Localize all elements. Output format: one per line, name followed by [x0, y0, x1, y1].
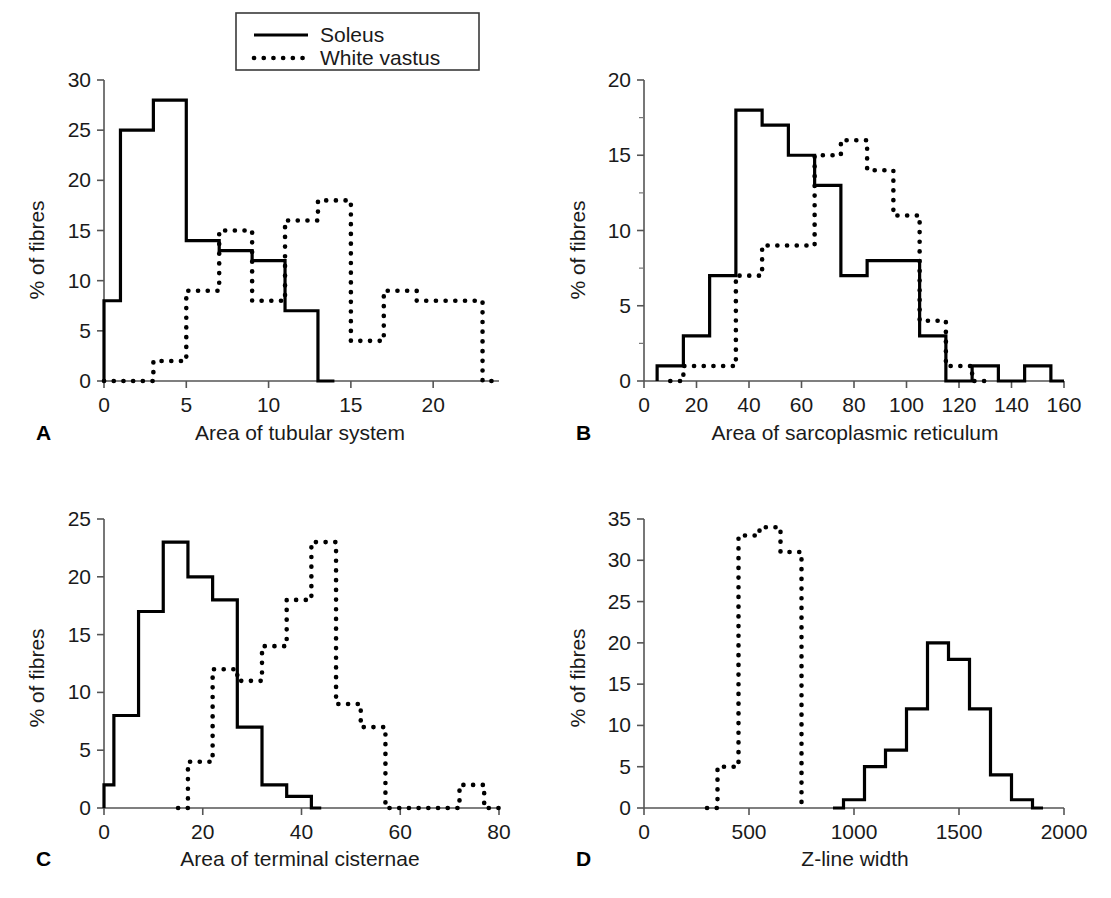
x-tick-label: 10	[257, 393, 280, 416]
panel-d: 050010001500200005101520253035% of fibre…	[566, 507, 1087, 870]
x-tick-label: 2000	[1041, 820, 1088, 843]
y-tick-label: 15	[608, 143, 631, 166]
x-axis-title: Area of terminal cisternae	[180, 847, 419, 870]
y-tick-label: 35	[608, 507, 631, 530]
panel-a: 05101520051015202530% of fibresArea of t…	[25, 68, 499, 444]
x-axis-title: Z-line width	[801, 847, 908, 870]
axes-d: 050010001500200005101520253035	[608, 507, 1088, 843]
series-white-vastus-b	[670, 140, 985, 381]
y-tick-label: 0	[79, 369, 91, 392]
x-tick-label: 60	[790, 393, 813, 416]
legend-label-white-vastus: White vastus	[320, 46, 440, 69]
x-tick-label: 500	[731, 820, 766, 843]
y-tick-label: 5	[79, 319, 91, 342]
x-tick-label: 20	[685, 393, 708, 416]
axes-b: 02040608010012014016005101520	[608, 68, 1082, 416]
series-soleus-a	[104, 100, 334, 381]
legend: SoleusWhite vastus	[236, 13, 479, 70]
y-tick-label: 5	[619, 294, 631, 317]
panel-b: 02040608010012014016005101520% of fibres…	[566, 68, 1082, 444]
x-tick-label: 0	[98, 393, 110, 416]
x-tick-label: 80	[487, 820, 510, 843]
panel-letter-b: B	[576, 421, 591, 444]
x-tick-label: 0	[638, 820, 650, 843]
x-tick-label: 60	[389, 820, 412, 843]
x-tick-label: 40	[737, 393, 760, 416]
y-tick-label: 20	[608, 68, 631, 91]
y-tick-label: 15	[608, 672, 631, 695]
y-tick-label: 10	[68, 680, 91, 703]
legend-label-soleus: Soleus	[320, 23, 384, 46]
y-tick-label: 15	[68, 623, 91, 646]
series-soleus-c	[104, 542, 321, 808]
y-tick-label: 10	[68, 269, 91, 292]
x-tick-label: 0	[638, 393, 650, 416]
panel-letter-c: C	[36, 847, 51, 870]
y-tick-label: 10	[608, 219, 631, 242]
series-soleus-d	[833, 643, 1043, 808]
axes-c: 0204060800510152025	[68, 507, 511, 843]
y-axis-title: % of fibres	[566, 200, 589, 299]
panel-c: 0204060800510152025% of fibresArea of te…	[25, 507, 511, 870]
y-tick-label: 0	[79, 796, 91, 819]
x-tick-label: 160	[1046, 393, 1081, 416]
series-soleus-b	[657, 110, 1064, 381]
y-tick-label: 20	[608, 631, 631, 654]
y-axis-title: % of fibres	[566, 628, 589, 727]
y-tick-label: 30	[608, 548, 631, 571]
y-tick-label: 0	[619, 369, 631, 392]
x-tick-label: 0	[98, 820, 110, 843]
y-tick-label: 15	[68, 219, 91, 242]
panel-letter-d: D	[576, 847, 591, 870]
panel-letter-a: A	[36, 421, 51, 444]
x-tick-label: 1000	[831, 820, 878, 843]
figure-panel-group: 05101520051015202530% of fibresArea of t…	[0, 0, 1111, 898]
x-tick-label: 15	[339, 393, 362, 416]
y-tick-label: 25	[608, 590, 631, 613]
y-tick-label: 25	[68, 118, 91, 141]
series-white-vastus-a	[104, 200, 499, 381]
x-tick-label: 5	[180, 393, 192, 416]
x-tick-label: 20	[191, 820, 214, 843]
x-tick-label: 80	[842, 393, 865, 416]
x-tick-label: 20	[421, 393, 444, 416]
x-axis-title: Area of tubular system	[195, 421, 405, 444]
y-axis-title: % of fibres	[25, 200, 48, 299]
y-tick-label: 0	[619, 796, 631, 819]
y-tick-label: 5	[79, 738, 91, 761]
y-tick-label: 20	[68, 168, 91, 191]
y-tick-label: 5	[619, 755, 631, 778]
y-tick-label: 20	[68, 565, 91, 588]
x-tick-label: 120	[941, 393, 976, 416]
y-axis-title: % of fibres	[25, 628, 48, 727]
y-tick-label: 10	[608, 713, 631, 736]
x-tick-label: 140	[994, 393, 1029, 416]
x-tick-label: 1500	[936, 820, 983, 843]
y-tick-label: 30	[68, 68, 91, 91]
x-axis-title: Area of sarcoplasmic reticulum	[711, 421, 998, 444]
series-white-vastus-c	[178, 542, 499, 808]
figure-canvas: 05101520051015202530% of fibresArea of t…	[0, 0, 1111, 898]
x-tick-label: 40	[290, 820, 313, 843]
y-tick-label: 25	[68, 507, 91, 530]
axes-a: 05101520051015202530	[68, 68, 499, 416]
series-white-vastus-d	[707, 527, 804, 808]
x-tick-label: 100	[889, 393, 924, 416]
